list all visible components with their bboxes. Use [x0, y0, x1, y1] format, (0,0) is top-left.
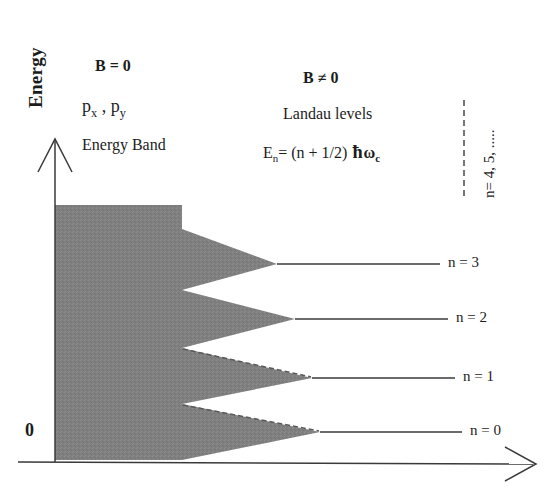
wedge-n1 [182, 348, 312, 404]
momentum-subscript-y: y [120, 106, 126, 120]
energy-band-label: Energy Band [82, 137, 166, 153]
momentum-p-y: p [111, 96, 120, 116]
level-label-n0: n = 0 [470, 423, 501, 438]
zero-field-label: B = 0 [95, 58, 131, 74]
formula-E: E [263, 144, 273, 161]
energy-band-block [55, 205, 182, 460]
wedge-n0 [182, 404, 320, 460]
wedge-n3 [182, 229, 277, 290]
formula-equality: = (n + 1/2) [278, 144, 347, 161]
landau-levels-label: Landau levels [283, 106, 372, 122]
hbar-symbol: ħ [351, 142, 363, 162]
momentum-separator: , [97, 96, 111, 116]
diagram-canvas [0, 0, 559, 487]
omega-symbol: ω [364, 144, 376, 161]
landau-energy-formula: En= (n + 1/2) ħωc [263, 143, 380, 164]
level-label-n2: n = 2 [456, 310, 487, 325]
higher-levels-series-label: n= 4, 5, ..... [482, 130, 497, 198]
level-label-n3: n = 3 [448, 255, 479, 270]
nonzero-field-label: B ≠ 0 [303, 70, 338, 86]
origin-label: 0 [25, 421, 34, 439]
level-lines [277, 264, 462, 432]
level-label-n1: n = 1 [463, 369, 494, 384]
momentum-p-x: p [82, 96, 91, 116]
wedge-n2 [182, 290, 295, 348]
x-axis-line [18, 462, 533, 464]
y-axis-title: Energy [26, 47, 45, 108]
omega-subscript-c: c [375, 152, 380, 164]
landau-levels-figure: Energy B = 0 px , py Energy Band B ≠ 0 L… [0, 0, 559, 487]
momentum-components-label: px , py [82, 97, 126, 119]
